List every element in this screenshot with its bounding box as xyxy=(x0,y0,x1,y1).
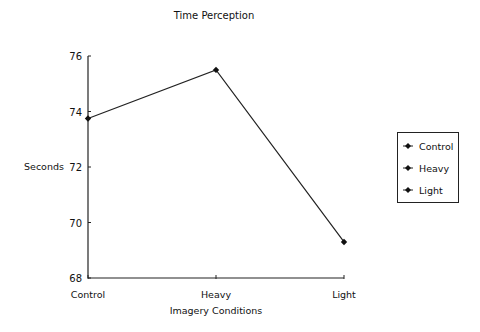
x-axis: ControlHeavyLight xyxy=(71,275,356,300)
line-chart: Time Perception 6870727476 Seconds Contr… xyxy=(0,0,480,332)
x-tick-label: Light xyxy=(332,289,356,300)
data-point-marker xyxy=(85,115,91,121)
y-tick-label: 72 xyxy=(69,162,82,173)
x-tick-label: Control xyxy=(71,289,105,300)
y-axis-label: Seconds xyxy=(24,161,64,172)
y-tick-label: 70 xyxy=(69,218,82,229)
legend-entry-label: Light xyxy=(419,185,443,196)
y-tick-label: 76 xyxy=(69,51,82,62)
y-tick-label: 68 xyxy=(69,273,82,284)
legend: ControlHeavyLight xyxy=(398,133,459,203)
y-tick-label: 74 xyxy=(69,107,82,118)
data-series xyxy=(85,67,347,245)
chart-title: Time Perception xyxy=(173,10,255,21)
y-axis: 6870727476 xyxy=(69,51,91,284)
x-axis-label: Imagery Conditions xyxy=(170,305,263,316)
legend-entry-label: Control xyxy=(419,141,453,152)
legend-entry-label: Heavy xyxy=(419,163,449,174)
x-tick-label: Heavy xyxy=(201,289,231,300)
